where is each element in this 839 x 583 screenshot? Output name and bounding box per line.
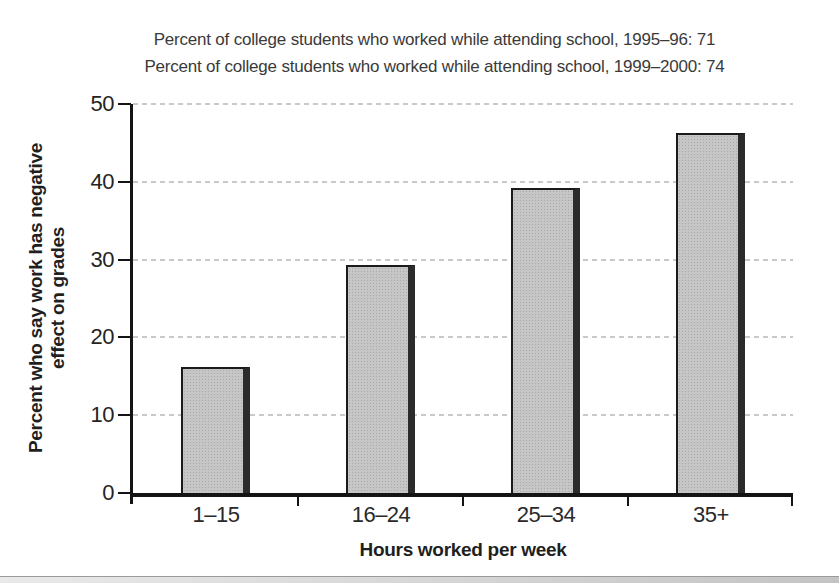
x-axis-title: Hours worked per week [360,539,567,561]
bar-4 [676,133,745,493]
y-axis-title-line-1: Percent who say work has negative [25,143,47,453]
y-tick-label-40: 40 [52,169,114,195]
scanned-bar-chart-page: Percent of college students who worked w… [0,0,839,583]
x-tick-2 [462,497,464,506]
category-label-3: 25–34 [517,502,576,528]
y-tick-label-30: 30 [52,247,114,273]
plot-area [133,104,793,493]
bar-1 [181,367,250,493]
y-tick-label-50: 50 [52,91,114,117]
y-tick-20 [118,336,131,338]
y-tick-label-10: 10 [52,402,114,428]
x-axis-line [130,493,793,497]
category-label-4: 35+ [693,502,729,528]
page-edge-band [0,576,839,583]
x-tick-3 [627,497,629,506]
y-tick-label-20: 20 [52,324,114,350]
y-tick-30 [118,259,131,261]
y-tick-10 [118,414,131,416]
bar-2 [346,265,415,493]
bar-3 [511,188,580,493]
title-line-2: Percent of college students who worked w… [30,53,839,80]
chart-header: Percent of college students who worked w… [0,26,839,80]
y-tick-50 [118,103,131,105]
y-tick-40 [118,181,131,183]
title-line-1: Percent of college students who worked w… [30,26,839,53]
x-tick-4 [791,497,793,506]
category-label-2: 16–24 [352,502,411,528]
y-tick-label-0: 0 [52,480,114,506]
gridline-50 [133,103,793,105]
x-tick-1 [297,497,299,506]
y-axis-line [130,104,133,504]
category-label-1: 1–15 [193,502,240,528]
